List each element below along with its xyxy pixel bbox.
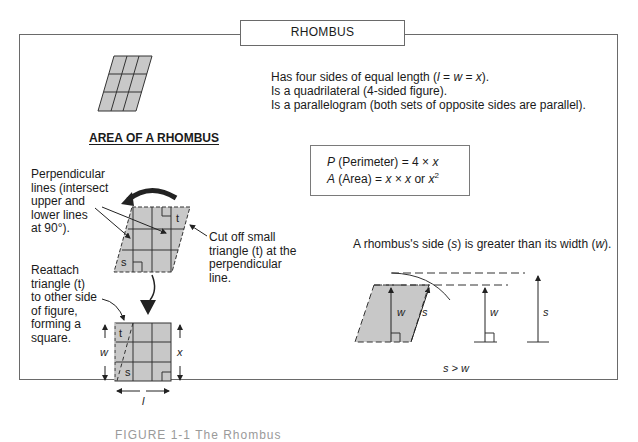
label-w-bar: w <box>490 306 499 318</box>
side-width-comparison-icon <box>355 273 549 342</box>
label-s-rhombus: s <box>422 306 428 318</box>
down-arrow-icon <box>140 300 156 315</box>
curved-arrow-icon <box>128 190 176 200</box>
label-s-middle: s <box>121 256 127 268</box>
label-w-rhombus: w <box>397 306 406 318</box>
label-x-square: x <box>176 346 183 358</box>
label-w-square: w <box>100 346 109 358</box>
square-icon <box>115 323 171 381</box>
label-t-middle: t <box>176 212 179 224</box>
figure-caption: FIGURE 1-1 The Rhombus <box>115 428 282 442</box>
rhombus-grid-icon <box>98 56 152 111</box>
label-s-bar: s <box>543 306 549 318</box>
label-s-square: s <box>125 366 131 378</box>
label-t-square: t <box>119 327 122 339</box>
label-l-square: l <box>142 395 145 407</box>
